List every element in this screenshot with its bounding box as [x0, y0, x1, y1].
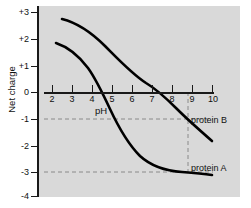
x-tick-5 — [112, 85, 113, 92]
x-axis-title: pH — [95, 105, 107, 116]
y-tick-1 — [31, 66, 37, 67]
y-tick-label-2: +2 — [19, 35, 29, 44]
x-tick-label-5: 5 — [104, 94, 120, 104]
y-tick-label-0: 0 — [24, 88, 29, 97]
y-tick-label-3: +3 — [19, 8, 29, 17]
curve-protein-b — [62, 19, 212, 141]
x-tick-2 — [52, 85, 53, 92]
x-tick-9 — [192, 85, 193, 92]
y-tick-3 — [31, 12, 37, 13]
x-tick-label-6: 6 — [124, 94, 140, 104]
y-tick-label-m1: -1 — [21, 115, 29, 124]
x-tick-6 — [132, 85, 133, 92]
series-label-protein-b: protein B — [191, 115, 227, 125]
x-tick-label-3: 3 — [64, 94, 80, 104]
y-tick-m1 — [31, 119, 37, 120]
net-charge-vs-ph-chart: +3 +2 +1 0 -1 -2 -3 -4 Net charge 2 3 4 … — [0, 0, 251, 208]
y-tick-label-m3: -3 — [21, 168, 29, 177]
x-tick-label-7: 7 — [144, 94, 160, 104]
y-tick-0 — [31, 92, 37, 93]
x-tick-10 — [212, 85, 213, 92]
y-tick-m2 — [31, 146, 37, 147]
y-axis-line — [37, 6, 39, 197]
y-tick-m3 — [31, 172, 37, 173]
y-tick-label-m4: -4 — [21, 192, 29, 201]
x-tick-7 — [152, 85, 153, 92]
y-axis-title: Net charge — [6, 60, 17, 120]
x-tick-label-4: 4 — [84, 94, 100, 104]
x-tick-4 — [92, 85, 93, 92]
x-tick-label-10: 10 — [205, 94, 221, 104]
x-tick-3 — [72, 85, 73, 92]
series-label-protein-a: protein A — [191, 163, 227, 173]
y-tick-label-1: +1 — [19, 62, 29, 71]
x-tick-label-9: 9 — [184, 94, 200, 104]
y-tick-2 — [31, 39, 37, 40]
y-tick-m4 — [31, 196, 37, 197]
y-tick-label-m2: -2 — [21, 142, 29, 151]
x-tick-label-8: 8 — [164, 94, 180, 104]
x-tick-label-2: 2 — [44, 94, 60, 104]
x-tick-8 — [172, 85, 173, 92]
curve-protein-a — [56, 43, 212, 175]
